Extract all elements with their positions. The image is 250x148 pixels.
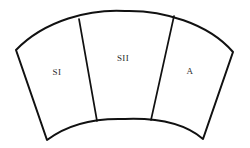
annular-sector-diagram: SI SII A (0, 0, 250, 148)
panel-label-left: SI (53, 67, 62, 77)
annular-sector-outline (16, 11, 233, 140)
diagram-canvas: SI SII A (0, 0, 250, 148)
panel-label-right: A (187, 66, 194, 76)
panel-label-middle: SII (117, 53, 129, 63)
